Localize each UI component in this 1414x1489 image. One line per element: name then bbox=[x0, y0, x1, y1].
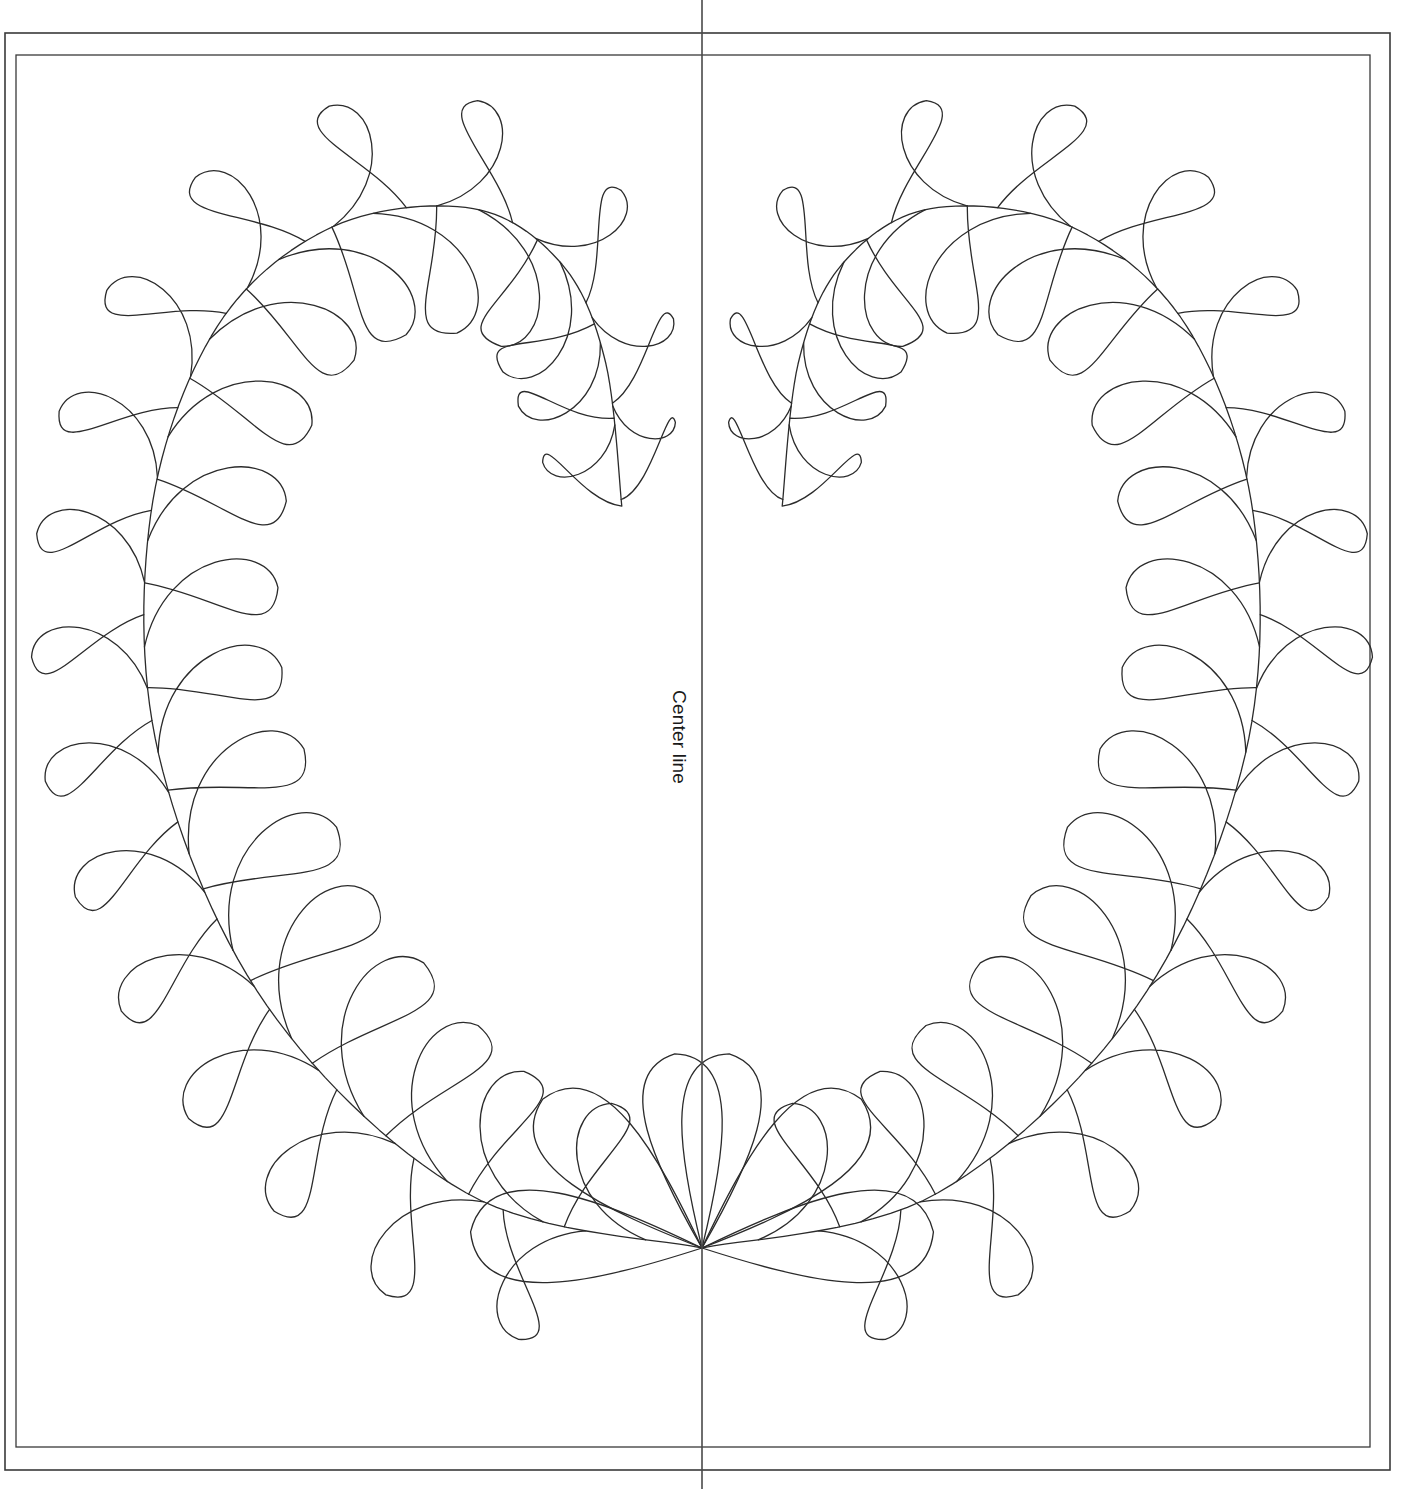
quilting-pattern-page: Center line bbox=[0, 0, 1414, 1489]
center-line-label: Center line bbox=[668, 690, 690, 784]
feathered-heart-pattern bbox=[0, 0, 1414, 1489]
page-background bbox=[0, 0, 1414, 1489]
